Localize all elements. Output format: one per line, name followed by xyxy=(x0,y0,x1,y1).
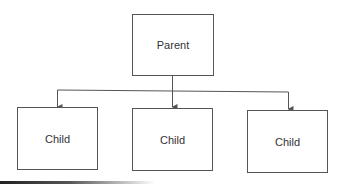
child-label: Child xyxy=(45,133,70,145)
child-node-right: Child xyxy=(247,110,328,173)
child-node-middle: Child xyxy=(132,108,213,171)
child-label: Child xyxy=(160,134,185,146)
scan-edge-artifact xyxy=(0,181,345,184)
child-node-left: Child xyxy=(17,107,98,170)
child-label: Child xyxy=(275,136,300,148)
edge-parent-to-right xyxy=(173,91,289,109)
edge-parent-to-left xyxy=(58,90,173,107)
parent-label: Parent xyxy=(157,39,189,51)
parent-node: Parent xyxy=(132,14,214,76)
